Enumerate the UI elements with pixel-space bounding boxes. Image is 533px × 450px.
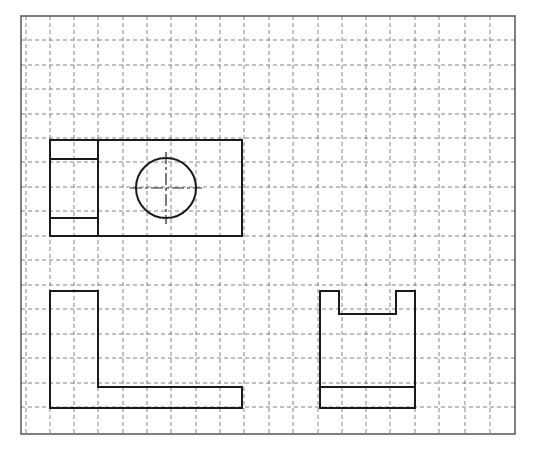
- drawing-canvas: [0, 0, 533, 450]
- paper-background: [0, 0, 533, 450]
